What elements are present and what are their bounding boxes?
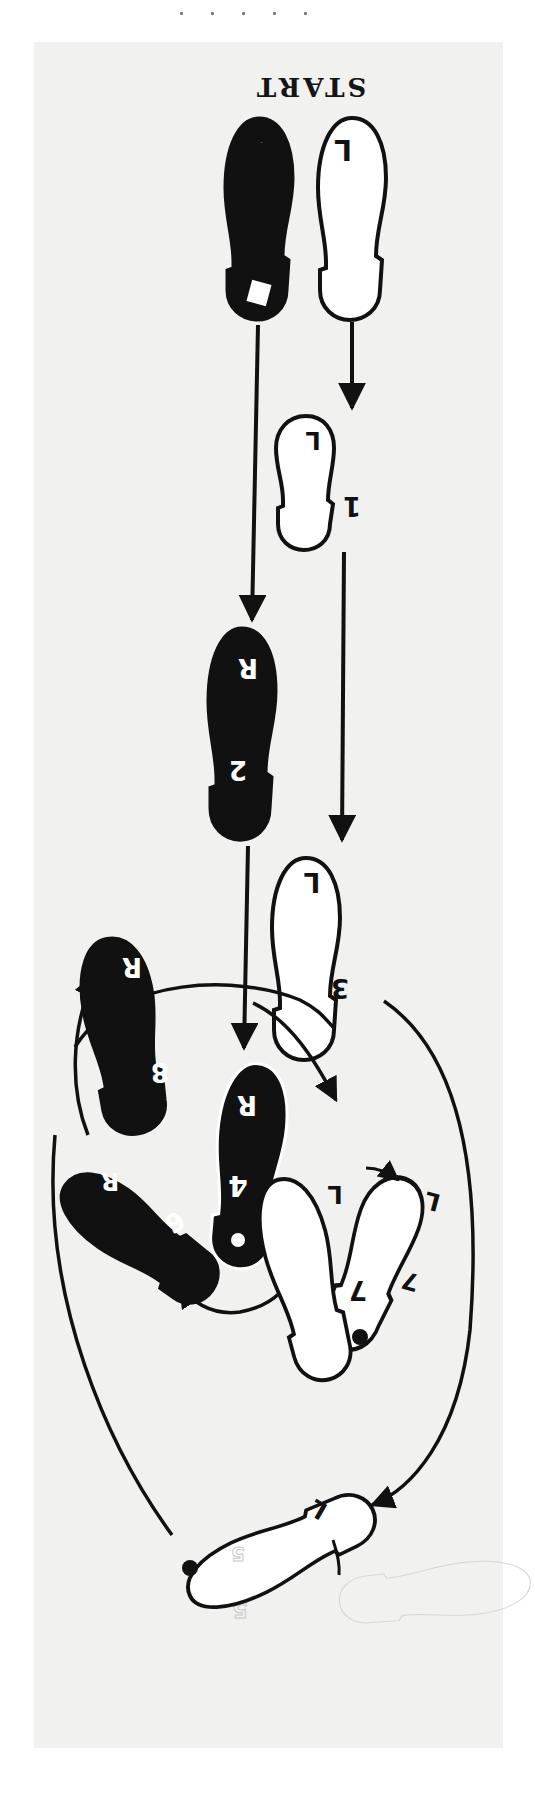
arrow-step2-to-step4 <box>244 846 248 1048</box>
step-3-number: 3 <box>331 973 349 1003</box>
svg-text:5: 5 <box>231 1542 245 1566</box>
start-right-foot <box>225 118 293 320</box>
step-2-number: 2 <box>229 755 247 785</box>
svg-text:R: R <box>237 1090 257 1120</box>
step-4-pivot-dot <box>231 1233 245 1247</box>
svg-text:L: L <box>421 1186 443 1217</box>
step-7b-number: 7 <box>399 1265 422 1296</box>
svg-text:L: L <box>305 426 320 454</box>
step-8-side-label: R <box>122 952 142 982</box>
step-7a-side-label: L <box>327 1180 342 1208</box>
step-5-ghost-foot <box>336 1555 533 1631</box>
svg-text:R: R <box>122 952 142 982</box>
step-8-number: 8 <box>151 1057 169 1087</box>
arrow-start-to-step2 <box>252 325 258 620</box>
svg-text:L: L <box>304 867 321 897</box>
step-4-side-label: R <box>237 1090 257 1120</box>
step-1-number: 1 <box>343 491 361 521</box>
svg-text:START: START <box>254 72 366 102</box>
svg-text:7: 7 <box>349 1275 367 1305</box>
step-6-right-foot <box>46 1158 232 1315</box>
svg-text:2: 2 <box>229 755 247 785</box>
svg-text:1: 1 <box>343 491 361 521</box>
step-5-faint-number: 5 <box>231 1542 245 1566</box>
step-1-left-foot <box>276 416 334 550</box>
step-5-final-left-foot <box>177 1481 385 1623</box>
svg-text:L: L <box>334 133 352 166</box>
dance-step-diagram: START R L L 1 R 2 L <box>0 0 535 1793</box>
step-7b-side-label: L <box>421 1186 443 1217</box>
step-4-number: 4 <box>228 1169 247 1202</box>
start-left-label: L <box>334 133 352 166</box>
svg-text:8: 8 <box>151 1057 169 1087</box>
step-1-side-label: L <box>305 426 320 454</box>
start-label: START <box>254 72 366 102</box>
svg-text:7: 7 <box>399 1265 422 1296</box>
step-7a-number: 7 <box>349 1275 367 1305</box>
step-7a-pivot-dot <box>352 1329 368 1345</box>
arrow-step7a-to-step7b <box>366 1168 398 1180</box>
svg-text:R: R <box>238 653 258 683</box>
arrow-step1-to-step3 <box>342 552 344 840</box>
svg-text:R: R <box>101 1167 119 1195</box>
step-2-side-label: R <box>238 653 258 683</box>
step-5-pivot-dot <box>182 1560 198 1576</box>
step-3-side-label: L <box>304 867 321 897</box>
svg-text:4: 4 <box>228 1169 247 1202</box>
svg-text:L: L <box>327 1180 342 1208</box>
svg-text:3: 3 <box>331 973 349 1003</box>
step-6-side-label: R <box>101 1167 119 1195</box>
